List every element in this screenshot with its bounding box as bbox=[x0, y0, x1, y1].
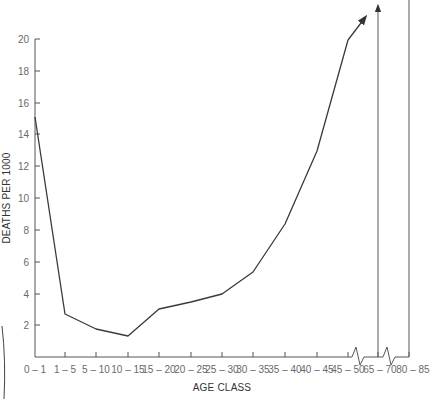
y-tick-label: 4 bbox=[23, 289, 29, 300]
x-tick-label: 45 – 50 bbox=[331, 364, 365, 375]
y-tick-label: 18 bbox=[18, 66, 30, 77]
x-tick-label: 65 – 70 bbox=[363, 364, 397, 375]
x-axis-title: AGE CLASS bbox=[193, 382, 252, 393]
y-tick-label: 12 bbox=[18, 161, 30, 172]
y-tick-label: 2 bbox=[23, 320, 29, 331]
y-ticks bbox=[35, 39, 40, 325]
x-tick-label: 10 – 15 bbox=[111, 364, 145, 375]
x-tick-label: 35 – 40 bbox=[268, 364, 302, 375]
x-tick-label: 25 – 30 bbox=[205, 364, 239, 375]
y-tick-labels: 2 4 6 8 10 12 14 16 18 20 bbox=[18, 34, 30, 331]
mortality-line bbox=[35, 40, 348, 336]
x-tick-labels: 0 – 1 1 – 5 5 – 10 10 – 15 15 – 20 20 – … bbox=[24, 364, 430, 375]
x-tick-label: 1 – 5 bbox=[54, 364, 77, 375]
x-tick-label: 80 – 85 bbox=[396, 364, 430, 375]
y-tick-label: 6 bbox=[23, 257, 29, 268]
y-tick-label: 8 bbox=[23, 225, 29, 236]
y-axis-title: DEATHS PER 1000 bbox=[1, 152, 12, 243]
x-tick-label: 0 – 1 bbox=[24, 364, 47, 375]
page-edge-curve bbox=[2, 326, 5, 399]
y-tick-label: 14 bbox=[18, 129, 30, 140]
y-tick-label: 10 bbox=[18, 193, 30, 204]
x-tick-label: 20 – 25 bbox=[174, 364, 208, 375]
y-tick-label: 16 bbox=[18, 98, 30, 109]
line-chart: 2 4 6 8 10 12 14 16 18 20 DEATHS PER 100… bbox=[0, 0, 430, 399]
y-tick-label: 20 bbox=[18, 34, 30, 45]
x-tick-label: 5 – 10 bbox=[82, 364, 110, 375]
x-tick-label: 40 – 45 bbox=[300, 364, 334, 375]
x-tick-label: 15 – 20 bbox=[142, 364, 176, 375]
continuation-arrow-icon bbox=[348, 19, 364, 40]
x-tick-label: 30 – 35 bbox=[236, 364, 270, 375]
